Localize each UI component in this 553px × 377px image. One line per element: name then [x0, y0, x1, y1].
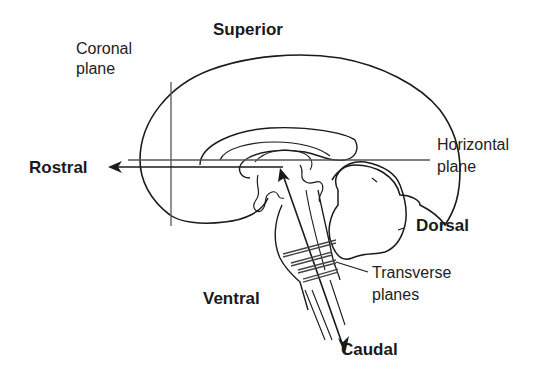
spinal-cord-lines [305, 280, 345, 340]
cerebellum-outline [329, 162, 406, 259]
label-coronal-plane-line2: plane [76, 60, 115, 78]
cerebrum-outline [140, 55, 460, 225]
brain-planes-diagram: Superior Coronal plane Rostral Horizonta… [0, 0, 553, 377]
label-transverse-planes-line2: planes [372, 286, 419, 304]
label-transverse-planes-line1: Transverse [372, 264, 451, 282]
label-horizontal-plane-line2: plane [437, 158, 476, 176]
label-superior: Superior [213, 20, 283, 40]
label-dorsal: Dorsal [416, 216, 469, 236]
label-caudal: Caudal [341, 340, 398, 360]
cerebellum-fold-1 [372, 178, 377, 182]
corpus-callosum-outer [200, 128, 357, 178]
transverse-leader-line [336, 262, 368, 272]
label-ventral: Ventral [203, 289, 260, 309]
label-horizontal-plane-line1: Horizontal [437, 136, 509, 154]
brainstem-front [275, 205, 308, 310]
frontal-lobe-lower [170, 198, 268, 223]
label-rostral: Rostral [29, 158, 88, 178]
label-coronal-plane-line1: Coronal [76, 40, 132, 58]
